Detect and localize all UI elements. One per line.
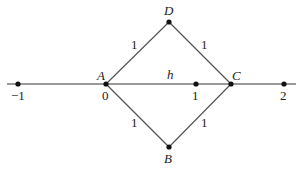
label-A: A (96, 68, 105, 83)
point-one (193, 81, 198, 86)
edge-label-DC: 1 (201, 37, 208, 52)
rhombus-diagram: A D B C 1 1 1 1 h −1 0 1 2 (0, 0, 300, 173)
tick-label-zero: 0 (102, 88, 109, 103)
edge-label-BC: 1 (201, 115, 208, 130)
point-two (281, 81, 286, 86)
tick-label-minus-one: −1 (11, 88, 25, 103)
point-D (166, 19, 171, 24)
label-D: D (163, 3, 174, 18)
tick-label-two: 2 (280, 88, 287, 103)
edge-AD (106, 22, 169, 84)
tick-label-one: 1 (192, 88, 199, 103)
label-B: B (164, 151, 172, 166)
point-minus-one (15, 81, 20, 86)
edge-label-AD: 1 (131, 37, 138, 52)
label-C: C (232, 68, 241, 83)
segment-label-h: h (167, 67, 174, 82)
edge-label-AB: 1 (131, 115, 138, 130)
point-B (166, 144, 171, 149)
edge-DC (169, 22, 231, 84)
edge-AB (106, 84, 169, 147)
edge-BC (169, 84, 231, 147)
